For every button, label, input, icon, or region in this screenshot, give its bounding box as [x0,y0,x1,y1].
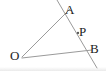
point-label-O: O [10,49,19,62]
ray-OB-line [22,50,92,58]
transversal-AB-line [57,0,97,68]
point-label-A: A [65,3,74,16]
geometry-figure: A P B O [0,0,106,71]
ray-OA-line [22,9,70,57]
point-label-B: B [90,42,99,55]
point-label-P: P [79,25,86,38]
